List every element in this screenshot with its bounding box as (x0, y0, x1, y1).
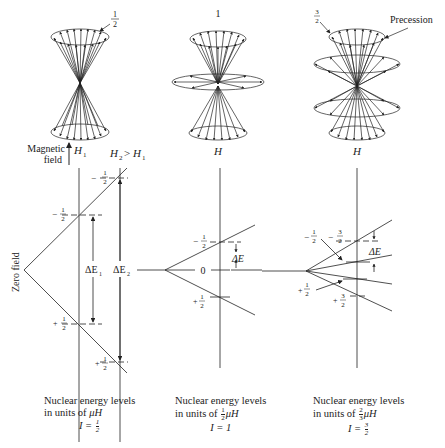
svg-text:>: > (124, 147, 130, 159)
cone-label-spin-half: 1 2 (111, 10, 119, 29)
svg-text:2: 2 (119, 154, 123, 162)
svg-text:0: 0 (201, 265, 206, 276)
svg-text:2: 2 (127, 271, 130, 277)
svg-text:H: H (109, 147, 119, 159)
svg-text:H: H (73, 144, 83, 156)
svg-text:2: 2 (103, 364, 107, 372)
caption-spin-one: Nuclear energy levels in units of 12μH I… (175, 395, 266, 434)
caption-line2: in units of 12μH (175, 407, 266, 422)
svg-text:1: 1 (103, 169, 107, 177)
svg-text:3: 3 (338, 228, 342, 236)
svg-text:−: − (193, 236, 198, 246)
svg-text:1: 1 (305, 281, 309, 289)
svg-text:1: 1 (61, 206, 65, 214)
svg-text:ΔE: ΔE (231, 253, 244, 264)
energy-levels-spin-one (137, 168, 262, 368)
svg-text:1: 1 (200, 293, 204, 301)
svg-text:+: + (53, 319, 58, 328)
svg-text:+: + (95, 359, 100, 368)
svg-text:1: 1 (113, 10, 117, 19)
magnetic-field-arrow: Magnetic field H 1 (27, 143, 87, 165)
caption-spin-three-halves: Nuclear energy levels in units of 23μH I… (313, 395, 404, 437)
svg-text:ΔE: ΔE (368, 246, 381, 257)
svg-text:2: 2 (202, 242, 206, 250)
svg-text:ΔE: ΔE (113, 264, 126, 275)
svg-text:+: + (193, 297, 198, 306)
svg-text:1: 1 (142, 154, 146, 162)
svg-text:2: 2 (315, 17, 319, 25)
svg-text:2: 2 (305, 290, 309, 298)
svg-text:Magnetic: Magnetic (27, 143, 65, 154)
svg-text:H: H (213, 145, 223, 157)
cone-spin-one (172, 31, 264, 140)
svg-text:1: 1 (216, 8, 221, 19)
svg-text:−: − (91, 173, 96, 183)
svg-text:Zero field: Zero field (10, 252, 21, 292)
cone-spin-three-halves (314, 22, 408, 140)
svg-text:3: 3 (315, 8, 319, 16)
svg-text:H: H (352, 145, 362, 157)
spin-diagram: 1 2 Magnetic field H 1 H 2 > H 1 − (0, 0, 445, 448)
caption-spin: I = 12 (44, 419, 135, 434)
svg-text:1: 1 (103, 355, 107, 363)
svg-text:field: field (44, 154, 62, 165)
svg-text:1: 1 (99, 271, 102, 277)
svg-text:1: 1 (202, 233, 206, 241)
caption-spin: I = 32 (313, 422, 404, 437)
svg-text:1: 1 (62, 315, 66, 323)
cone-spin-half (51, 24, 110, 140)
field-comparison-label: H 2 > H 1 (109, 147, 146, 162)
svg-text:+: + (333, 296, 338, 305)
svg-text:+: + (298, 286, 303, 295)
svg-text:H: H (132, 147, 142, 159)
caption-spin: I = 1 (175, 422, 266, 434)
svg-text:−: − (328, 232, 333, 242)
svg-text:2: 2 (113, 20, 117, 29)
svg-text:2: 2 (61, 215, 65, 223)
precession-label: Precession (390, 14, 433, 25)
caption-line2: in units of μH (44, 407, 135, 419)
svg-text:2: 2 (338, 237, 342, 245)
svg-text:ΔE: ΔE (85, 264, 98, 275)
level-labels-spin-half: − 1 2 − 1 2 + 1 2 + 1 2 ΔE 1 ΔE 2 Zero f… (10, 169, 132, 372)
svg-text:2: 2 (200, 302, 204, 310)
energy-levels-spin-three-halves (262, 168, 392, 368)
svg-text:1: 1 (312, 228, 316, 236)
svg-text:2: 2 (103, 178, 107, 186)
svg-text:3: 3 (341, 292, 345, 300)
caption-line1: Nuclear energy levels (44, 395, 135, 407)
caption-line2: in units of 23μH (313, 407, 404, 422)
svg-text:1: 1 (83, 151, 87, 159)
svg-text:−: − (304, 232, 309, 242)
caption-spin-half: Nuclear energy levels in units of μH I =… (44, 395, 135, 434)
svg-text:2: 2 (312, 237, 316, 245)
svg-text:2: 2 (62, 324, 66, 332)
svg-text:2: 2 (341, 301, 345, 309)
svg-text:−: − (52, 209, 57, 219)
